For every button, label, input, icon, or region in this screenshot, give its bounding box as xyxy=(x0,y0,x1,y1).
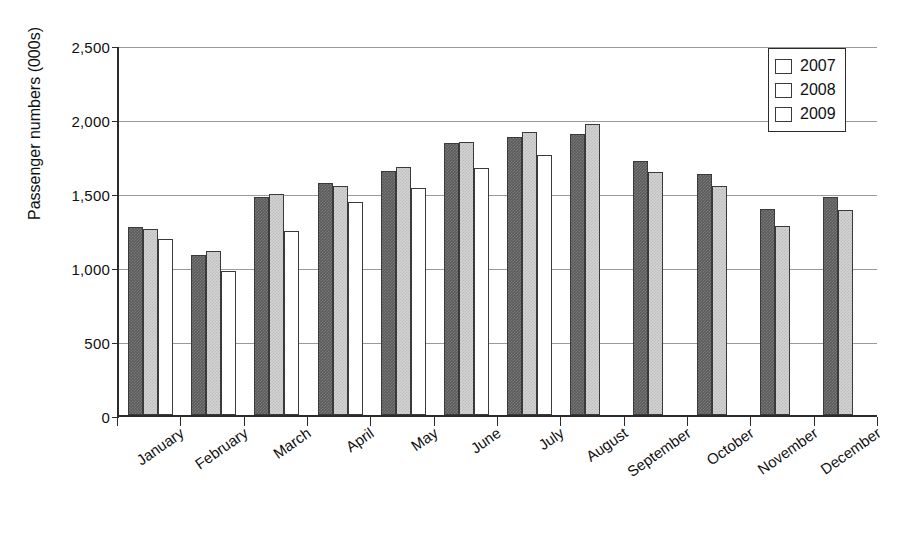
legend-item-2007[interactable]: 2007 xyxy=(775,54,836,78)
y-axis-tick-label: 1,000 xyxy=(10,261,110,278)
bar-2008-august xyxy=(585,124,600,415)
x-axis-tick xyxy=(877,417,878,426)
bar-2007-april xyxy=(318,183,333,415)
y-axis-tick-label: 2,000 xyxy=(10,113,110,130)
bar-2008-april xyxy=(333,186,348,415)
bar-2007-july xyxy=(507,137,522,415)
x-axis-tick-labels: JanuaryFebruaryMarchAprilMayJuneJulyAugu… xyxy=(117,424,877,544)
bar-2008-december xyxy=(838,210,853,415)
x-axis-label-october: October xyxy=(703,424,756,469)
bar-2008-may xyxy=(396,167,411,415)
bar-2009-july xyxy=(537,155,552,415)
bar-2007-march xyxy=(254,197,269,415)
y-axis-tick xyxy=(112,195,119,196)
x-axis-label-august: August xyxy=(583,424,631,465)
x-axis-label-december: December xyxy=(817,424,883,478)
bar-group xyxy=(119,47,182,415)
x-axis-label-february: February xyxy=(192,424,251,472)
y-axis-tick xyxy=(112,343,119,344)
y-axis-tick xyxy=(112,269,119,270)
bar-2008-november xyxy=(775,226,790,415)
bar-2007-november xyxy=(760,209,775,415)
y-axis-tick-label: 0 xyxy=(10,409,110,426)
legend-label-2007: 2007 xyxy=(800,57,836,75)
chart-figure: Passenger numbers (000s) 05001,0001,5002… xyxy=(0,0,898,545)
bar-2008-september xyxy=(648,172,663,415)
bar-2007-june xyxy=(444,143,459,415)
bar-2007-december xyxy=(823,197,838,415)
bar-2008-october xyxy=(712,186,727,415)
bar-2009-may xyxy=(411,188,426,415)
bar-group xyxy=(624,47,687,415)
bar-group xyxy=(561,47,624,415)
bar-2007-august xyxy=(570,134,585,415)
bar-group xyxy=(498,47,561,415)
bar-2008-february xyxy=(206,251,221,415)
bar-2007-may xyxy=(381,171,396,415)
bar-2008-july xyxy=(522,132,537,415)
bar-groups xyxy=(119,47,877,415)
x-axis-label-june: June xyxy=(467,424,503,457)
y-axis-tick-label: 2,500 xyxy=(10,39,110,56)
bar-group xyxy=(309,47,372,415)
y-axis-tick xyxy=(112,47,119,48)
y-axis-tick xyxy=(112,121,119,122)
bar-2008-june xyxy=(459,142,474,415)
plot-area xyxy=(117,47,877,417)
bar-2009-february xyxy=(221,271,236,415)
bar-group xyxy=(372,47,435,415)
bar-2007-february xyxy=(191,255,206,415)
legend-item-2009[interactable]: 2009 xyxy=(775,102,836,126)
legend-swatch-2008 xyxy=(775,83,792,98)
bar-2009-january xyxy=(158,239,173,415)
bar-2007-october xyxy=(697,174,712,415)
x-axis-label-september: September xyxy=(624,424,694,480)
legend-swatch-2009 xyxy=(775,107,792,122)
bar-group xyxy=(688,47,751,415)
y-axis-tick-label: 1,500 xyxy=(10,187,110,204)
bar-2007-january xyxy=(128,227,143,415)
x-axis-label-may: May xyxy=(408,424,441,454)
legend-label-2009: 2009 xyxy=(800,105,836,123)
x-axis-label-march: March xyxy=(270,424,314,462)
bar-group xyxy=(435,47,498,415)
bar-2008-march xyxy=(269,194,284,415)
y-axis-tick-labels: 05001,0001,5002,0002,500 xyxy=(0,0,110,545)
bar-group xyxy=(182,47,245,415)
bar-2008-january xyxy=(143,229,158,415)
bar-2009-june xyxy=(474,168,489,415)
legend-swatch-2007 xyxy=(775,59,792,74)
x-axis-label-july: July xyxy=(535,424,567,453)
x-axis-label-january: January xyxy=(133,424,186,469)
x-axis-label-november: November xyxy=(754,424,820,478)
legend-item-2008[interactable]: 2008 xyxy=(775,78,836,102)
y-axis-tick-label: 500 xyxy=(10,335,110,352)
bar-2009-march xyxy=(284,231,299,415)
legend-label-2008: 2008 xyxy=(800,81,836,99)
bar-group xyxy=(245,47,308,415)
bar-2009-april xyxy=(348,202,363,415)
bar-2007-september xyxy=(633,161,648,415)
x-axis-label-april: April xyxy=(342,424,376,455)
chart-legend: 200720082009 xyxy=(768,48,846,132)
